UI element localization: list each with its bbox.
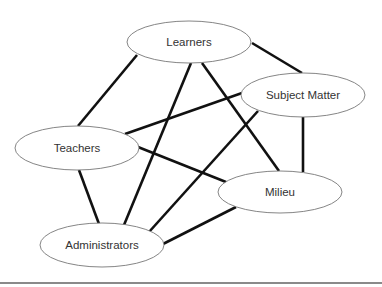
edge-subject-matter-administrators xyxy=(149,111,258,232)
edge-teachers-subject-matter xyxy=(125,93,242,134)
node-subject-matter: Subject Matter xyxy=(241,73,365,117)
relationship-diagram: Learners Subject Matter Teachers Milieu … xyxy=(0,0,382,287)
edge-teachers-milieu xyxy=(138,147,226,182)
node-teachers: Teachers xyxy=(15,126,139,170)
edge-milieu-administrators xyxy=(163,207,236,244)
bottom-divider xyxy=(0,282,382,284)
node-learners: Learners xyxy=(127,21,251,63)
subject-matter-label: Subject Matter xyxy=(266,89,340,101)
administrators-label: Administrators xyxy=(65,239,139,251)
edge-learners-teachers xyxy=(78,55,137,126)
node-administrators: Administrators xyxy=(40,223,164,267)
edge-teachers-administrators xyxy=(79,170,99,224)
milieu-label: Milieu xyxy=(265,186,295,198)
node-milieu: Milieu xyxy=(218,171,342,213)
edge-learners-subject-matter xyxy=(252,43,302,73)
teachers-label: Teachers xyxy=(54,142,101,154)
learners-label: Learners xyxy=(166,36,212,48)
